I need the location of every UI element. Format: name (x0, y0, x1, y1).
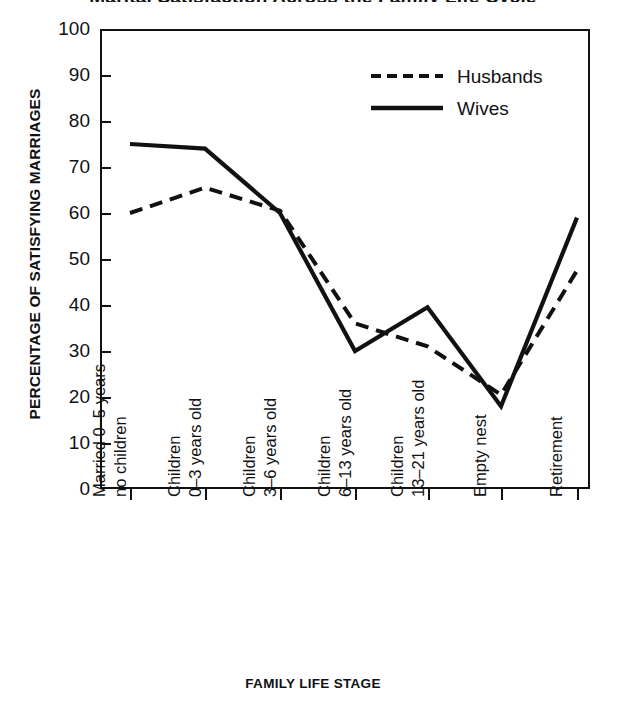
x-category-label-line1: Married 0–5 years (90, 364, 109, 497)
chart-title: Marital Satisfaction Across the Family L… (0, 0, 626, 2)
x-tick-mark (130, 489, 132, 500)
y-tick-label: 60 (44, 203, 90, 222)
y-axis-title: PERCENTAGE OF SATISFYING MARRIAGES (26, 34, 44, 474)
x-category-label-line2: 3–6 years old (261, 398, 280, 497)
legend-item-wives: Wives (370, 92, 543, 124)
x-category-label-line2: 6–13 years old (336, 389, 355, 497)
x-category-label-line1: Empty nest (471, 414, 490, 497)
x-tick-mark (577, 489, 579, 500)
x-category-label-line1: Retirement (547, 416, 566, 497)
y-tick-label: 50 (44, 249, 90, 268)
y-tick-label: 10 (44, 433, 90, 452)
legend-solid-line-icon (370, 101, 444, 115)
y-tick-label: 40 (44, 295, 90, 314)
legend-label-husbands: Husbands (457, 67, 543, 86)
x-tick-mark (205, 489, 207, 500)
y-tick-label: 0 (44, 479, 90, 498)
y-tick-label: 80 (44, 111, 90, 130)
y-tick-label: 70 (44, 157, 90, 176)
y-tick-mark (100, 75, 111, 77)
x-tick-mark (355, 489, 357, 500)
y-tick-mark (100, 259, 111, 261)
y-tick-mark (100, 167, 111, 169)
x-axis-title: FAMILY LIFE STAGE (0, 676, 626, 691)
y-tick-mark (100, 121, 111, 123)
chart-legend: Husbands Wives (370, 60, 543, 124)
legend-dashed-line-icon (370, 69, 444, 83)
y-tick-mark (100, 213, 111, 215)
y-tick-label: 30 (44, 341, 90, 360)
chart-figure: Marital Satisfaction Across the Family L… (0, 0, 626, 713)
y-tick-label: 90 (44, 65, 90, 84)
x-category-label-line1: Children (315, 436, 334, 497)
x-category-label-line1: Children (388, 436, 407, 497)
x-category-label-line1: Children (165, 436, 184, 497)
y-tick-label: 100 (44, 19, 90, 38)
x-tick-mark (280, 489, 282, 500)
x-category-label-line1: Children (240, 436, 259, 497)
x-tick-mark (501, 489, 503, 500)
x-category-label-line2: 13–21 years old (409, 380, 428, 497)
y-tick-mark (100, 305, 111, 307)
x-category-label-line2: 0–3 years old (186, 398, 205, 497)
x-category-label-line2: no children (111, 416, 130, 497)
legend-item-husbands: Husbands (370, 60, 543, 92)
legend-label-wives: Wives (457, 99, 509, 118)
y-tick-label: 20 (44, 387, 90, 406)
y-tick-mark (100, 351, 111, 353)
